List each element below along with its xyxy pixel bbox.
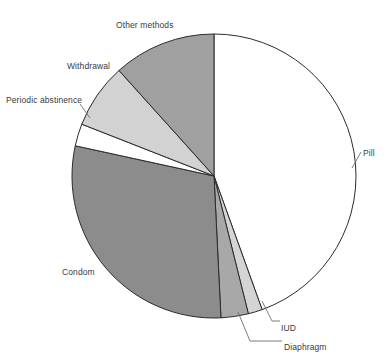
- pie-slice-group: [72, 34, 356, 318]
- slice-label-withdrawal: Withdrawal: [67, 62, 110, 71]
- slice-label-condom: Condom: [62, 268, 95, 277]
- slice-label-diaphragm: Diaphragm: [284, 343, 326, 352]
- slice-label-periodic-abstinence: Periodic abstinence: [6, 96, 82, 105]
- pie-chart-canvas: [0, 0, 389, 363]
- slice-label-pill: Pill: [363, 149, 375, 158]
- slice-label-other-methods: Other methods: [116, 21, 174, 30]
- pie-chart-figure: Other methods Withdrawal Periodic abstin…: [0, 0, 389, 363]
- leader-line-diaphragm: [238, 312, 282, 341]
- slice-label-iud: IUD: [281, 324, 296, 333]
